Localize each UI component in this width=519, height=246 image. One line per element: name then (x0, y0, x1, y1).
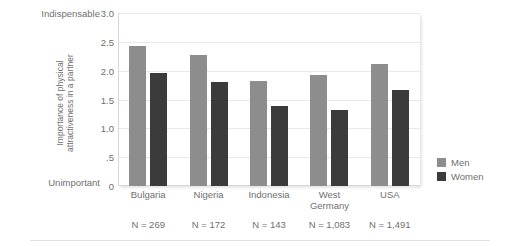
sample-size-label: N = 1,491 (360, 219, 420, 230)
bar-men (310, 75, 327, 186)
y-axis-tick-label: 0 (109, 181, 114, 192)
y-axis-tick-label: .5 (106, 152, 114, 163)
x-axis-category-label: WestGermany (299, 189, 359, 211)
sample-size-label: N = 172 (178, 219, 238, 230)
bar-men (129, 46, 146, 186)
bar-group (299, 13, 359, 186)
legend-swatch-men-icon (437, 158, 446, 167)
bar-group (118, 13, 178, 186)
sample-size-label: N = 1,083 (299, 219, 359, 230)
bar-men (190, 55, 207, 186)
bar-women (271, 106, 288, 186)
plot-area (118, 13, 420, 186)
x-axis-category-label: USA (360, 189, 420, 211)
bar-group (360, 13, 420, 186)
bottom-divider (30, 240, 490, 241)
y-axis-tick-labels: 0.51.01.52.02.53.0 (92, 8, 114, 188)
chart-figure: Indispensable Unimportant Importance of … (0, 0, 519, 246)
bar-men (371, 64, 388, 186)
y-axis-tick-label: 1.0 (101, 123, 114, 134)
bar-group (178, 13, 238, 186)
y-axis-tick-label: 3.0 (101, 8, 114, 19)
legend-label-women: Women (451, 171, 484, 182)
sample-size-label: N = 143 (239, 219, 299, 230)
y-axis-tick-label: 2.5 (101, 36, 114, 47)
bar-women (211, 82, 228, 186)
legend: Men Women (437, 157, 484, 185)
x-axis-category-label: Nigeria (178, 189, 238, 211)
bar-women (331, 110, 348, 186)
bar-women (392, 90, 409, 186)
legend-item-men: Men (437, 157, 484, 168)
legend-item-women: Women (437, 171, 484, 182)
legend-label-men: Men (451, 157, 469, 168)
bar-groups (118, 13, 420, 186)
y-axis-title-line-2: attractiveness in a partner (65, 19, 75, 187)
y-axis-title: Importance of physical attractiveness in… (56, 18, 74, 188)
y-axis-title-line-1: Importance of physical (55, 19, 65, 187)
y-axis-tick-label: 2.0 (101, 65, 114, 76)
sample-size-labels: N = 269N = 172N = 143N = 1,083N = 1,491 (118, 219, 420, 230)
bar-men (250, 81, 267, 186)
x-axis-category-label: Bulgaria (118, 189, 178, 211)
sample-size-label: N = 269 (118, 219, 178, 230)
x-axis-category-labels: BulgariaNigeriaIndonesiaWestGermanyUSA (118, 189, 420, 211)
legend-swatch-women-icon (437, 172, 446, 181)
bar-women (150, 73, 167, 186)
bar-group (239, 13, 299, 186)
x-axis-category-label: Indonesia (239, 189, 299, 211)
y-axis-tick-label: 1.5 (101, 94, 114, 105)
